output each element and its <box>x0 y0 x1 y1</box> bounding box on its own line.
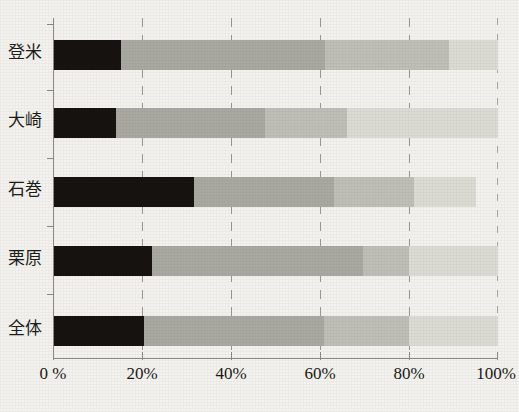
ytick-mark-1 <box>47 90 54 91</box>
ytick-mark-3 <box>47 226 54 227</box>
bar-segment <box>414 177 476 207</box>
xtick-mark-0 <box>53 352 54 360</box>
xtick-mark-20 <box>142 352 143 360</box>
bar-segment <box>347 108 498 138</box>
bar-segment <box>409 316 498 346</box>
bar-row <box>54 177 498 207</box>
bar-segment <box>54 316 144 346</box>
x-axis-label-80: 80% <box>379 364 439 384</box>
x-axis-label-0: 0 % <box>23 364 83 384</box>
bar-segment <box>121 40 325 70</box>
ytick-mark-4 <box>47 294 54 295</box>
x-axis-line <box>53 358 498 359</box>
y-axis-label-2: 石巻 <box>0 181 50 198</box>
xtick-mark-100 <box>497 352 498 360</box>
x-axis-label-100: 100% <box>463 364 519 384</box>
bar-segment <box>194 177 334 207</box>
y-axis-label-3: 栗原 <box>0 250 50 267</box>
bar-segment <box>334 177 414 207</box>
y-axis-label-4: 全体 <box>0 320 50 337</box>
bar-segment <box>54 108 116 138</box>
bar-segment <box>54 246 152 276</box>
xtick-mark-80 <box>409 352 410 360</box>
xtick-mark-60 <box>320 352 321 360</box>
bar-segment <box>324 316 409 346</box>
bar-segment <box>409 246 498 276</box>
bar-segment <box>265 108 347 138</box>
bar-segment <box>144 316 324 346</box>
x-axis-label-20: 20% <box>112 364 172 384</box>
x-axis-label-40: 40% <box>201 364 261 384</box>
bar-segment <box>54 177 194 207</box>
bar-row <box>54 108 498 138</box>
bar-segment <box>116 108 265 138</box>
ytick-mark-0 <box>47 24 54 25</box>
bar-row <box>54 316 498 346</box>
ytick-mark-2 <box>47 158 54 159</box>
bar-segment <box>152 246 363 276</box>
y-axis-label-1: 大崎 <box>0 112 50 129</box>
stacked-bar-chart: 登米 大崎 石巻 栗原 全体 0 % 20% 40% 60% 8 <box>0 0 519 412</box>
bar-segment <box>54 40 121 70</box>
bar-row <box>54 40 498 70</box>
bar-segment <box>325 40 449 70</box>
bar-row <box>54 246 498 276</box>
xtick-mark-40 <box>231 352 232 360</box>
bar-segment <box>449 40 498 70</box>
x-axis-label-60: 60% <box>290 364 350 384</box>
bar-segment <box>363 246 410 276</box>
y-axis-label-0: 登米 <box>0 44 50 61</box>
